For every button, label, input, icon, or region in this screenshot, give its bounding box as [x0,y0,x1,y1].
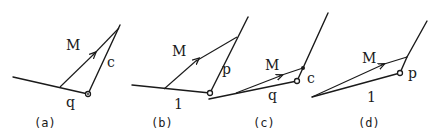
vertex-circle [208,91,213,96]
label-upper: p [408,65,417,81]
vertex-circle [295,79,300,84]
caption-c: (c) [253,116,275,130]
lower-segment [132,85,210,93]
arrow-m [60,54,94,87]
arrow-m-tail [196,37,237,61]
label-lower: 1 [174,96,183,112]
vertex-dot [301,66,305,70]
upper-segment [210,17,248,93]
label-upper: p [222,61,231,77]
vertex-circle [398,71,403,76]
label-lower: 1 [367,89,376,105]
label-m: M [66,37,80,53]
lower-segment [209,81,297,99]
label-upper: c [107,54,115,70]
label-lower: q [268,87,277,103]
caption-b: (b) [151,116,173,130]
panel-d: M p 1 (d) [312,21,427,130]
arrow-m [164,60,197,89]
upper-segment [407,21,427,57]
upper-segment [303,13,328,68]
lower-segment [13,77,88,94]
label-lower: q [66,94,75,110]
caption-d: (d) [358,116,380,130]
label-upper: c [307,70,315,86]
label-m: M [265,57,279,73]
label-m: M [172,43,186,59]
arrow-m-tail [381,57,407,65]
panel-b: M p 1 (b) [132,17,248,130]
upper-segment [88,25,120,94]
arrow-m-tail [93,28,119,55]
panel-a: M c q (a) [13,25,120,130]
label-m: M [362,50,376,66]
diagram-canvas: M c q (a) M p 1 (b) M c q (c) M [0,0,437,137]
caption-a: (a) [34,116,56,130]
